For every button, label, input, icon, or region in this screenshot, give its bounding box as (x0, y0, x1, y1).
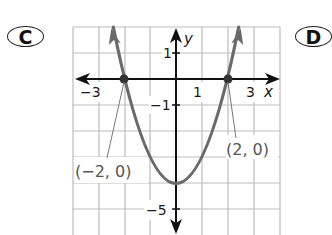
y-tick-neg5: −5 (146, 202, 167, 218)
y-axis-label: y (183, 30, 194, 48)
x-tick-3: 3 (246, 84, 255, 100)
y-tick-1: 1 (163, 45, 172, 61)
x-axis-label: x (263, 83, 273, 101)
y-tick-neg1: −1 (150, 97, 171, 113)
leader-line-right (228, 82, 236, 138)
x-tick-neg3: −3 (80, 84, 101, 100)
point-label-right: (2, 0) (226, 140, 269, 159)
point-label-left: (−2, 0) (75, 162, 131, 181)
leader-line-left (107, 82, 124, 158)
x-tick-1: 1 (193, 84, 202, 100)
